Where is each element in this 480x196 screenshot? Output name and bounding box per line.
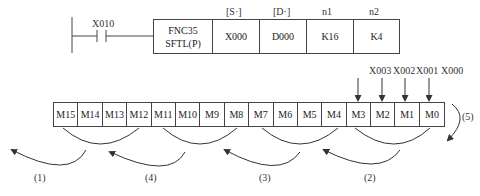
step-label-1: (1) xyxy=(34,172,46,183)
figure-caption-clipped xyxy=(140,190,320,196)
step-label-3: (3) xyxy=(259,172,271,183)
step-label-5: (5) xyxy=(462,111,474,122)
shift-arrows xyxy=(0,0,480,196)
input-arrow-icons xyxy=(358,78,429,100)
step-label-2: (2) xyxy=(364,172,376,183)
step-label-4: (4) xyxy=(145,172,157,183)
